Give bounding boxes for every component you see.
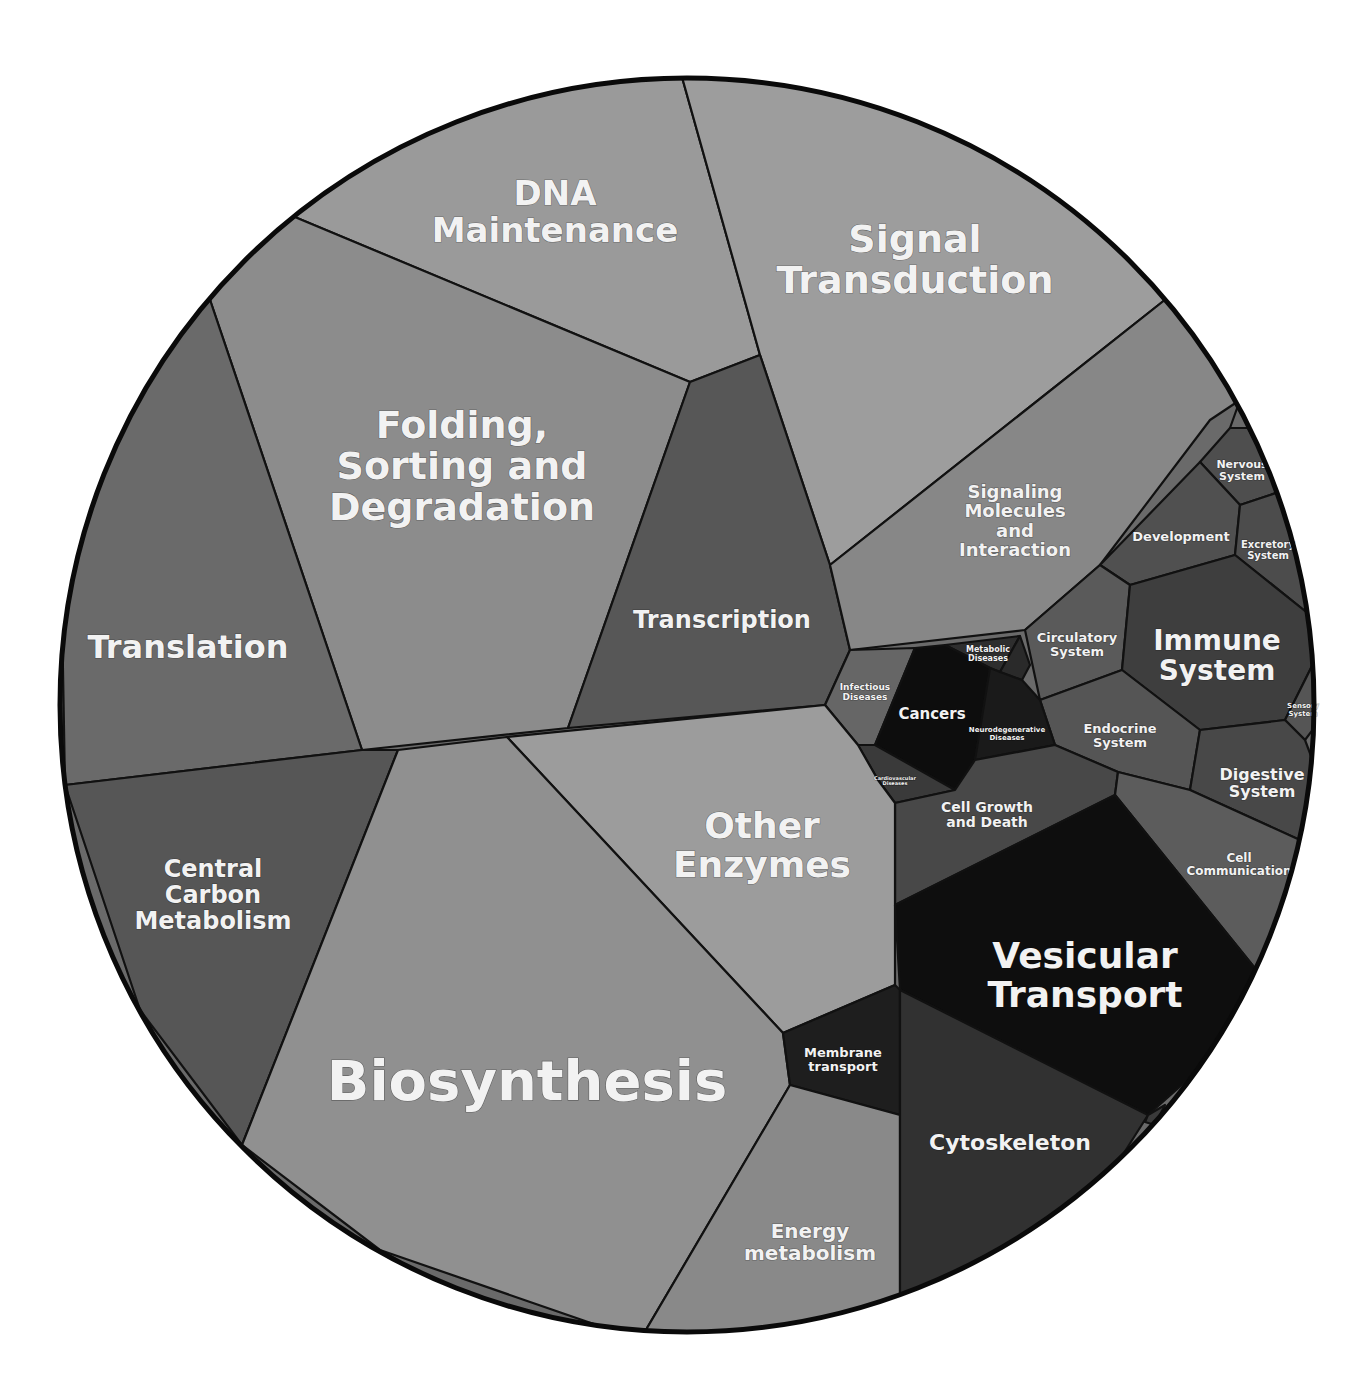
label-line: Metabolism bbox=[134, 907, 291, 935]
label-line: Excretory bbox=[1241, 539, 1296, 550]
label-line: Transcription bbox=[633, 606, 811, 634]
label-line: Diseases bbox=[883, 780, 908, 786]
label-line: Energy bbox=[771, 1219, 850, 1243]
label-development: Development bbox=[1132, 529, 1229, 544]
label-line: Biosynthesis bbox=[327, 1048, 728, 1113]
voronoi-treemap-chart: DNAMaintenanceSignalTransductionFolding,… bbox=[0, 0, 1369, 1388]
label-nervous-system: NervousSystem bbox=[1216, 458, 1268, 483]
label-line: Diseases bbox=[843, 692, 888, 702]
label-line: System bbox=[1050, 644, 1104, 659]
label-line: and bbox=[996, 520, 1034, 541]
label-line: Diseases bbox=[990, 734, 1025, 742]
label-immune-system: ImmuneSystem bbox=[1153, 624, 1281, 687]
label-infectious-diseases: InfectiousDiseases bbox=[840, 682, 890, 702]
label-metabolic-diseases: MetabolicDiseases bbox=[966, 645, 1010, 663]
label-line: Carbon bbox=[165, 881, 261, 909]
label-line: Cytoskeleton bbox=[929, 1130, 1091, 1155]
label-line: Circulatory bbox=[1037, 630, 1118, 645]
label-vesicular-transport: VesicularTransport bbox=[987, 935, 1182, 1015]
label-line: Membrane bbox=[804, 1045, 882, 1060]
label-line: Transport bbox=[987, 974, 1182, 1015]
label-line: System bbox=[1093, 735, 1147, 750]
label-line: System bbox=[1247, 550, 1289, 561]
label-line: Diseases bbox=[968, 654, 1008, 663]
label-line: Vesicular bbox=[992, 935, 1178, 976]
label-cytoskeleton: Cytoskeleton bbox=[929, 1130, 1091, 1155]
label-line: Maintenance bbox=[432, 210, 679, 250]
label-line: metabolism bbox=[744, 1241, 876, 1265]
label-endocrine-system: EndocrineSystem bbox=[1083, 721, 1156, 750]
label-line: Cancers bbox=[898, 705, 965, 723]
label-line: Cell bbox=[1226, 851, 1251, 865]
label-biosynthesis: Biosynthesis bbox=[327, 1048, 728, 1113]
label-line: Other bbox=[704, 805, 820, 846]
label-line: transport bbox=[808, 1059, 877, 1074]
label-line: Signal bbox=[848, 217, 981, 261]
label-cell-growth-death: Cell Growthand Death bbox=[941, 799, 1033, 830]
label-line: System bbox=[1219, 470, 1265, 483]
label-line: Interaction bbox=[959, 539, 1071, 560]
label-line: Molecules bbox=[964, 500, 1065, 521]
label-line: Infectious bbox=[840, 682, 890, 692]
label-membrane-transport: Membranetransport bbox=[804, 1045, 882, 1074]
label-line: Translation bbox=[87, 628, 288, 666]
label-line: Degradation bbox=[329, 485, 595, 529]
label-line: Digestive bbox=[1219, 765, 1304, 784]
label-line: System bbox=[1229, 782, 1296, 801]
label-line: Transduction bbox=[777, 258, 1054, 302]
label-line: Central bbox=[164, 855, 263, 883]
label-line: Immune bbox=[1153, 624, 1281, 657]
label-line: Enzymes bbox=[673, 844, 851, 885]
label-line: DNA bbox=[514, 173, 598, 213]
label-transcription: Transcription bbox=[633, 606, 811, 634]
label-digestive-system: DigestiveSystem bbox=[1219, 765, 1304, 801]
label-translation: Translation bbox=[87, 628, 288, 666]
label-line: and Death bbox=[946, 814, 1028, 830]
label-line: Endocrine bbox=[1083, 721, 1156, 736]
label-line: Communication bbox=[1186, 864, 1291, 878]
label-line: System bbox=[1159, 654, 1276, 687]
label-excretory-system: ExcretorySystem bbox=[1241, 539, 1296, 561]
label-line: Sorting and bbox=[337, 444, 588, 488]
label-line: Cell Growth bbox=[941, 799, 1033, 815]
label-line: Development bbox=[1132, 529, 1229, 544]
label-cancers: Cancers bbox=[898, 705, 965, 723]
label-signaling-molecules: SignalingMoleculesandInteraction bbox=[959, 481, 1071, 560]
label-line: Folding, bbox=[376, 403, 548, 447]
label-line: Signaling bbox=[967, 481, 1062, 502]
